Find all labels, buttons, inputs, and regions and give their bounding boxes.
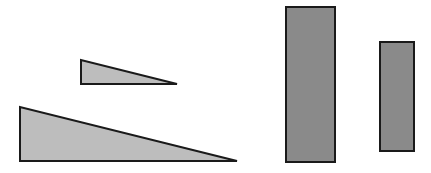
tall-rectangle bbox=[286, 7, 335, 162]
large-triangle bbox=[20, 107, 237, 161]
shapes-canvas bbox=[0, 0, 431, 173]
small-triangle bbox=[81, 60, 177, 84]
short-rectangle bbox=[380, 42, 414, 151]
